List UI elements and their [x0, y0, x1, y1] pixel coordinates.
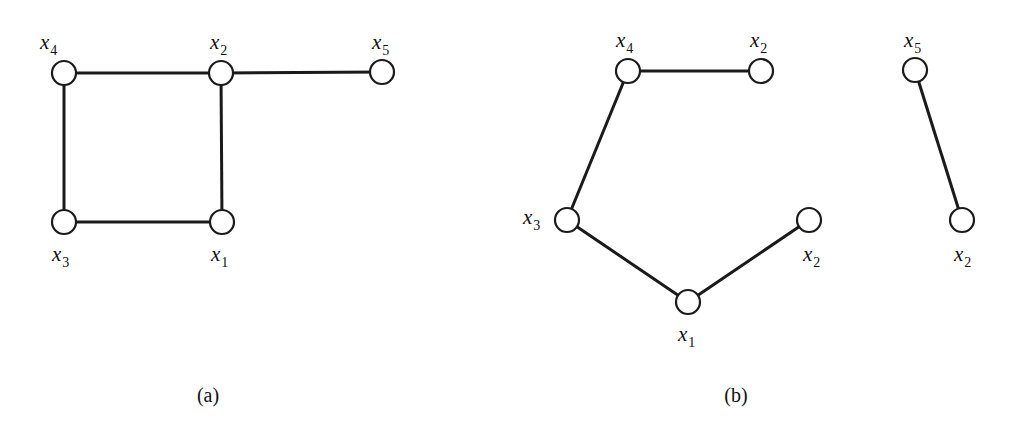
node-label-a_x3: x3 [51, 242, 69, 270]
node-label-b_x2b: x2 [802, 242, 820, 270]
node-b_x2c [950, 208, 974, 232]
node-b_x2a [749, 59, 773, 83]
labels-layer: x4x2x5x3x1x4x2x3x2x1x5x2 [39, 28, 971, 350]
edge-b-2 [567, 220, 688, 302]
caption-a: (a) [197, 384, 219, 407]
node-label-a_x5: x5 [371, 30, 389, 58]
node-label-b_x4: x4 [615, 28, 633, 56]
node-label-a_x4: x4 [39, 30, 57, 58]
node-a_x5 [370, 60, 394, 84]
node-b_x1 [676, 290, 700, 314]
edges-layer [64, 70, 962, 302]
node-label-b_x3: x3 [522, 205, 540, 233]
node-a_x4 [52, 61, 76, 85]
edge-a-3 [221, 73, 222, 222]
node-label-b_x1: x1 [677, 322, 695, 350]
node-b_x2b [797, 208, 821, 232]
edge-b-3 [688, 220, 809, 302]
node-a_x1 [210, 210, 234, 234]
node-label-b_x2a: x2 [749, 28, 767, 56]
node-a_x3 [52, 210, 76, 234]
nodes-layer [52, 58, 974, 314]
node-b_x5 [903, 58, 927, 82]
caption-b: (b) [724, 384, 747, 407]
node-b_x4 [616, 59, 640, 83]
node-label-b_x5: x5 [903, 28, 921, 56]
node-a_x2 [209, 61, 233, 85]
node-b_x3 [555, 208, 579, 232]
node-label-b_x2c: x2 [953, 242, 971, 270]
edge-b-4 [915, 70, 962, 220]
node-label-a_x2: x2 [209, 30, 227, 58]
graph-figure: x4x2x5x3x1x4x2x3x2x1x5x2 (a) (b) [0, 0, 1013, 426]
edge-a-1 [221, 72, 382, 73]
edge-b-1 [567, 71, 628, 220]
node-label-a_x1: x1 [210, 242, 228, 270]
